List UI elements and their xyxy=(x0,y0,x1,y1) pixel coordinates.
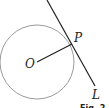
label-o: O xyxy=(25,57,35,71)
label-l: L xyxy=(91,88,100,102)
radius-op xyxy=(37,44,72,62)
diagram-canvas: O P L Fig. 2.1 xyxy=(0,0,109,108)
label-p: P xyxy=(73,31,83,45)
tangent-line-l xyxy=(47,0,95,86)
figure-caption: Fig. 2.1 xyxy=(80,104,109,108)
